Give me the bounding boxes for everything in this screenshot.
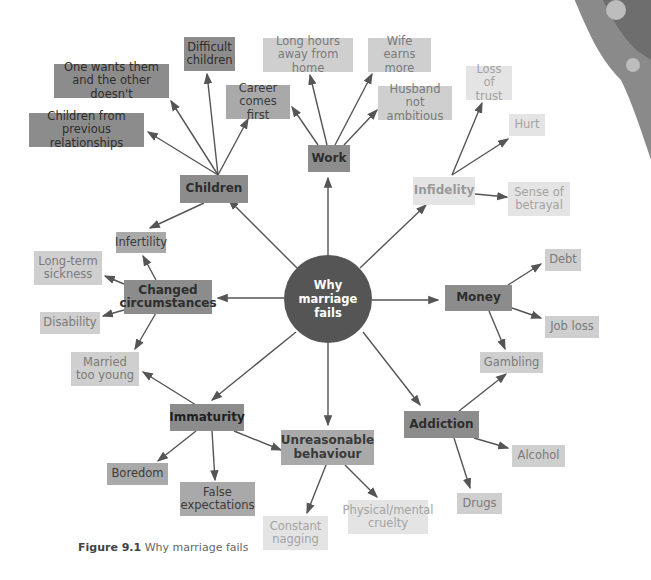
category-addiction: Addiction xyxy=(404,411,479,438)
node-long-term-sickness: Long-term sickness xyxy=(34,251,102,285)
node-husband-not-ambitious: Husband not ambitious xyxy=(378,86,452,120)
node-disability: Disability xyxy=(40,312,100,334)
node-gambling: Gambling xyxy=(480,352,543,373)
node-difficult-children: Difficult children xyxy=(184,37,235,71)
node-job-loss: Job loss xyxy=(545,316,599,338)
category-unreasonable-behaviour: Unreasonable behaviour xyxy=(281,430,374,465)
node-false-expectations: False expectations xyxy=(180,482,255,516)
node-wife-earns-more: Wife earns more xyxy=(368,38,431,72)
node-alcohol: Alcohol xyxy=(512,445,565,467)
central-topic: Why marriage fails xyxy=(284,255,372,343)
category-children: Children xyxy=(180,175,248,203)
node-one-wants-them: One wants them and the other doesn't xyxy=(54,64,169,98)
node-long-hours: Long hours away from home xyxy=(263,38,353,72)
node-career-comes-first: Career comes first xyxy=(226,85,290,119)
node-debt: Debt xyxy=(545,249,581,271)
category-infidelity: Infidelity xyxy=(413,177,475,205)
node-married-too-young: Married too young xyxy=(71,352,139,386)
node-sense-of-betrayal: Sense of betrayal xyxy=(508,182,570,216)
figure-caption: Figure 9.1 Why marriage fails xyxy=(78,541,248,554)
node-hurt: Hurt xyxy=(509,114,545,136)
category-changed-circumstances: Changed circumstances xyxy=(124,280,212,314)
category-work: Work xyxy=(308,145,350,172)
node-physical-mental-cruelty: Physical/mental cruelty xyxy=(348,500,428,534)
node-drugs: Drugs xyxy=(457,493,502,514)
node-loss-of-trust: Loss of trust xyxy=(466,66,512,100)
figure-number: Figure 9.1 xyxy=(78,541,141,554)
category-money: Money xyxy=(445,285,512,311)
node-boredom: Boredom xyxy=(107,463,168,485)
node-infertility: Infertility xyxy=(116,232,166,253)
node-children-previous-relationships: Children from previous relationships xyxy=(29,113,144,147)
node-constant-nagging: Constant nagging xyxy=(263,516,328,550)
category-immaturity: Immaturity xyxy=(170,404,244,431)
figure-title: Why marriage fails xyxy=(141,541,248,554)
